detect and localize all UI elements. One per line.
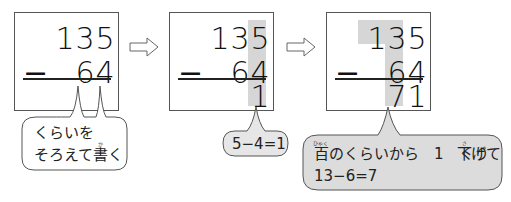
bubble-3-equation: 13−6=7 bbox=[314, 167, 377, 185]
callout-bubble-3-shape bbox=[0, 0, 511, 202]
bubble-3-line-1b: げて bbox=[471, 145, 501, 163]
bubble-3-kanji-hyaku: 百 bbox=[314, 145, 329, 163]
bubble-3-kanji-shita: 下 bbox=[457, 145, 472, 163]
